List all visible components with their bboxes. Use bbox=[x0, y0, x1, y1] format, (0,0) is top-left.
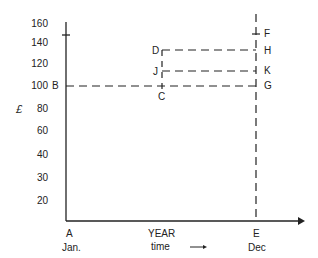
y-tick-60: 60 bbox=[20, 126, 48, 136]
point-j-label: J bbox=[153, 67, 158, 77]
time-label: time bbox=[151, 242, 170, 252]
point-f-label: F bbox=[264, 29, 270, 39]
x-axis-arrowhead bbox=[298, 217, 305, 225]
point-e-label: E bbox=[253, 229, 260, 239]
point-h-label: H bbox=[264, 46, 271, 56]
point-b-label: B bbox=[52, 81, 59, 91]
point-d-label: D bbox=[152, 46, 159, 56]
y-tick-140: 140 bbox=[20, 38, 48, 48]
point-g-label: G bbox=[264, 81, 272, 91]
y-axis-label: £ bbox=[16, 104, 22, 114]
y-tick-100: 100 bbox=[20, 81, 48, 91]
year-label: YEAR bbox=[148, 229, 175, 239]
y-tick-20: 20 bbox=[20, 196, 48, 206]
time-arrowhead bbox=[203, 245, 207, 249]
y-tick-80: 80 bbox=[20, 104, 48, 114]
point-c-label: C bbox=[158, 92, 165, 102]
dec-label: Dec bbox=[248, 243, 266, 253]
y-tick-40: 40 bbox=[20, 150, 48, 160]
y-tick-120: 120 bbox=[20, 59, 48, 69]
point-a-label: A bbox=[66, 229, 73, 239]
jan-label: Jan. bbox=[62, 243, 81, 253]
y-tick-160: 160 bbox=[20, 19, 48, 29]
y-tick-30: 30 bbox=[20, 173, 48, 183]
point-k-label: K bbox=[264, 66, 271, 76]
